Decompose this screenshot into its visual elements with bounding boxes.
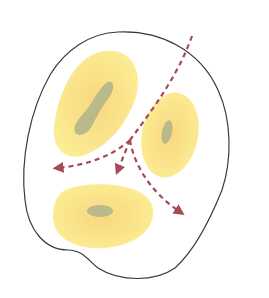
right-body (134, 87, 207, 183)
nucleus-icon (87, 205, 113, 217)
upper-left-body (54, 51, 138, 157)
cell-diagram (0, 0, 269, 298)
branch-down-arrow (118, 140, 130, 170)
lower-body (53, 184, 153, 248)
diagram-canvas (0, 0, 269, 298)
